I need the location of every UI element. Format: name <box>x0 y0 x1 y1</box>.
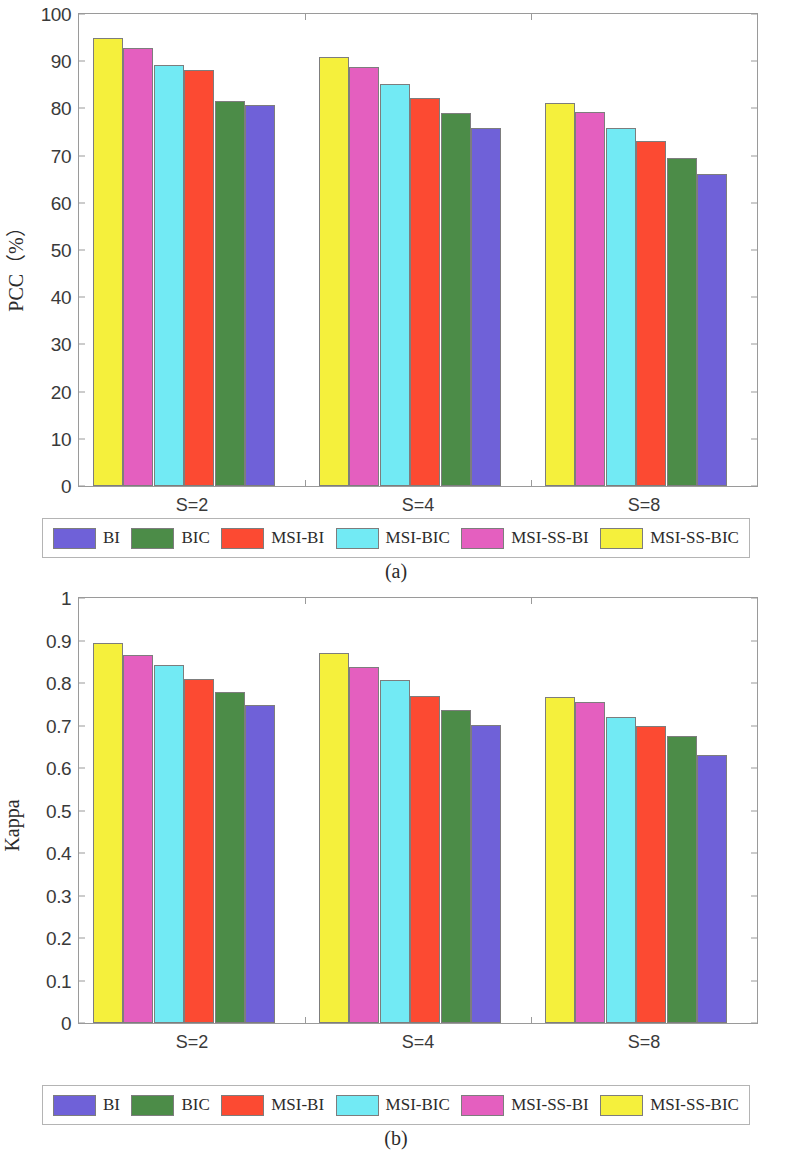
legend-swatch-msi-ss-bi <box>461 528 504 549</box>
y-tick-mark <box>751 250 757 251</box>
legend-swatch-bic <box>131 528 174 549</box>
bar <box>245 105 275 486</box>
x-tick-label: S=2 <box>176 1032 209 1053</box>
y-tick-mark <box>751 895 757 896</box>
bar <box>441 113 471 486</box>
bar <box>215 692 245 1023</box>
y-tick-mark <box>79 391 85 392</box>
y-tick-mark <box>751 640 757 641</box>
panel-a: 1009080706050403020100S=2S=4S=8 PCC（%） B… <box>0 0 792 584</box>
legend-swatch-bic <box>131 1095 174 1116</box>
legend-label: MSI-SS-BIC <box>650 1095 739 1115</box>
bar <box>245 705 275 1023</box>
legend-entry-msi-ss-bic[interactable]: MSI-SS-BIC <box>600 528 739 549</box>
x-tick-mark <box>305 480 306 486</box>
bar <box>380 84 410 486</box>
bar <box>606 128 636 486</box>
y-tick-mark <box>79 486 85 487</box>
y-tick-mark <box>751 853 757 854</box>
bar <box>410 696 440 1023</box>
y-tick-label: 0.1 <box>46 971 79 990</box>
legend-entry-msi-bic[interactable]: MSI-BIC <box>336 1095 450 1116</box>
legend-entry-msi-bi[interactable]: MSI-BI <box>221 1095 324 1116</box>
y-tick-label: 0.4 <box>46 844 79 863</box>
legend-label: BIC <box>181 528 209 548</box>
y-tick-mark <box>79 683 85 684</box>
y-tick-mark <box>751 725 757 726</box>
x-tick-mark <box>305 14 306 20</box>
y-tick-mark <box>79 155 85 156</box>
x-tick-mark <box>531 480 532 486</box>
y-tick-mark <box>79 297 85 298</box>
y-tick-label: 1 <box>61 589 79 608</box>
y-tick-mark <box>79 61 85 62</box>
y-tick-mark <box>79 438 85 439</box>
bar <box>636 726 666 1023</box>
caption-a: (a) <box>0 560 792 583</box>
bar <box>410 98 440 486</box>
y-tick-mark <box>751 980 757 981</box>
legend-swatch-msi-ss-bic <box>600 528 643 549</box>
y-axis-label-a: PCC（%） <box>0 155 29 375</box>
panel-b: 10.90.80.70.60.50.40.30.20.10S=2S=4S=8 K… <box>0 584 792 1168</box>
y-tick-label: 80 <box>51 99 79 118</box>
legend-label: MSI-SS-BIC <box>650 528 739 548</box>
caption-b: (b) <box>0 1127 792 1150</box>
legend-swatch-msi-bic <box>336 528 379 549</box>
y-tick-label: 100 <box>41 5 79 24</box>
legend-swatch-msi-bi <box>221 528 264 549</box>
bar <box>319 653 349 1023</box>
bar <box>349 667 379 1023</box>
legend-label: BIC <box>181 1095 209 1115</box>
y-tick-label: 0 <box>61 477 79 496</box>
bar <box>636 141 666 487</box>
legend-entry-bic[interactable]: BIC <box>131 528 209 549</box>
x-tick-label: S=2 <box>176 495 209 516</box>
y-tick-mark <box>79 938 85 939</box>
y-tick-mark <box>751 202 757 203</box>
y-tick-mark <box>79 768 85 769</box>
legend-entry-msi-bic[interactable]: MSI-BIC <box>336 528 450 549</box>
bar <box>575 112 605 486</box>
bar <box>471 725 501 1023</box>
y-tick-label: 0.7 <box>46 716 79 735</box>
y-tick-mark <box>79 980 85 981</box>
legend-swatch-bi <box>53 1095 96 1116</box>
y-tick-label: 0.6 <box>46 759 79 778</box>
legend-entry-msi-ss-bi[interactable]: MSI-SS-BI <box>461 1095 588 1116</box>
legend-entry-bi[interactable]: BI <box>53 1095 120 1116</box>
y-tick-mark <box>751 486 757 487</box>
legend-entry-msi-ss-bic[interactable]: MSI-SS-BIC <box>600 1095 739 1116</box>
x-tick-mark <box>531 14 532 20</box>
y-tick-mark <box>751 598 757 599</box>
bar <box>123 48 153 486</box>
bar <box>667 158 697 487</box>
legend-entry-bi[interactable]: BI <box>53 528 120 549</box>
bar <box>606 717 636 1023</box>
bar <box>215 101 245 486</box>
legend-label: MSI-BI <box>271 528 324 548</box>
y-tick-mark <box>751 810 757 811</box>
bar <box>184 679 214 1023</box>
x-tick-mark <box>305 1017 306 1023</box>
y-tick-mark <box>751 938 757 939</box>
y-tick-mark <box>79 202 85 203</box>
legend-entry-bic[interactable]: BIC <box>131 1095 209 1116</box>
bar <box>380 680 410 1023</box>
y-tick-label: 0 <box>61 1014 79 1033</box>
x-tick-mark <box>531 598 532 604</box>
y-tick-mark <box>751 108 757 109</box>
legend-entry-msi-ss-bi[interactable]: MSI-SS-BI <box>461 528 588 549</box>
axes-a: 1009080706050403020100S=2S=4S=8 <box>78 13 758 487</box>
y-tick-mark <box>751 391 757 392</box>
legend-entry-msi-bi[interactable]: MSI-BI <box>221 528 324 549</box>
x-tick-mark <box>305 598 306 604</box>
bar <box>545 697 575 1023</box>
y-tick-mark <box>79 344 85 345</box>
y-tick-label: 0.2 <box>46 929 79 948</box>
y-tick-mark <box>79 1023 85 1024</box>
y-tick-mark <box>79 895 85 896</box>
legend-swatch-msi-ss-bic <box>600 1095 643 1116</box>
y-tick-mark <box>751 14 757 15</box>
legend-b: BIBICMSI-BIMSI-BICMSI-SS-BIMSI-SS-BIC <box>42 1085 750 1125</box>
